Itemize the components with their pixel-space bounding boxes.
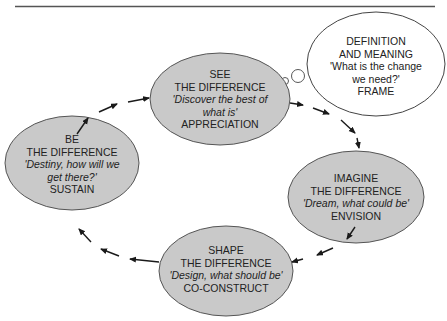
frame-cloud: DEFINITION AND MEANING 'What is the chan… [330, 35, 422, 98]
see-title: SEE [173, 68, 268, 81]
see-quote-line1: 'Discover the best of [173, 93, 268, 106]
see-subtitle: THE DIFFERENCE [173, 80, 268, 93]
be-node: BE THE DIFFERENCE 'Destiny, how will we … [24, 133, 119, 196]
imagine-node: IMAGINE THE DIFFERENCE 'Dream, what coul… [303, 172, 409, 222]
be-subtitle: THE DIFFERENCE [24, 145, 119, 158]
be-quote-line2: get there?' [24, 170, 119, 183]
imagine-subtitle: THE DIFFERENCE [303, 184, 409, 197]
see-node: SEE THE DIFFERENCE 'Discover the best of… [173, 68, 268, 131]
frame-subtitle: AND MEANING [330, 47, 422, 60]
thought-bubble-large [292, 70, 305, 83]
see-label: APPRECIATION [173, 118, 268, 131]
shape-quote: 'Design, what should be' [169, 269, 282, 282]
frame-quote-line2: we need?' [330, 72, 422, 85]
frame-title: DEFINITION [330, 35, 422, 48]
see-quote-line2: what is' [173, 105, 268, 118]
be-title: BE [24, 133, 119, 146]
arrow-shape-to-be [79, 229, 159, 262]
imagine-label: ENVISION [303, 210, 409, 223]
imagine-title: IMAGINE [303, 172, 409, 185]
be-quote-line1: 'Destiny, how will we [24, 158, 119, 171]
shape-label: CO-CONSTRUCT [169, 282, 282, 295]
frame-label: FRAME [330, 85, 422, 98]
imagine-quote: 'Dream, what could be' [303, 197, 409, 210]
shape-node: SHAPE THE DIFFERENCE 'Design, what shoul… [169, 244, 282, 294]
be-label: SUSTAIN [24, 183, 119, 196]
shape-title: SHAPE [169, 244, 282, 257]
frame-quote-line1: 'What is the change [330, 60, 422, 73]
shape-subtitle: THE DIFFERENCE [169, 256, 282, 269]
